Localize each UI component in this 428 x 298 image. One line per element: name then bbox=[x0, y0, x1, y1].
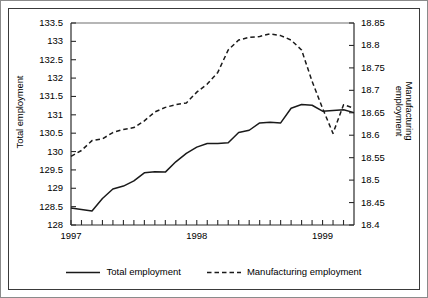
legend-label: Manufacturing employment bbox=[247, 267, 362, 277]
y-axis-left-tick-label: 132.5 bbox=[9, 55, 63, 65]
y-axis-right-tick-label: 18.45 bbox=[361, 198, 385, 208]
y-axis-left-tick-label: 130.5 bbox=[9, 128, 63, 138]
legend-item[interactable]: Manufacturing employment bbox=[207, 267, 362, 277]
y-axis-right-tick-label: 18.5 bbox=[361, 175, 380, 185]
y-axis-right-tick-label: 18.75 bbox=[361, 63, 385, 73]
chart-legend: Total employmentManufacturing employment bbox=[9, 264, 419, 280]
y-axis-right-tick-label: 18.55 bbox=[361, 153, 385, 163]
y-axis-right-tick-label: 18.85 bbox=[361, 18, 385, 28]
y-axis-left-tick-label: 131 bbox=[9, 110, 63, 120]
series-line-solid bbox=[71, 105, 354, 212]
x-axis-tick-label: 1998 bbox=[167, 231, 227, 241]
x-axis-tick-label: 1999 bbox=[293, 231, 353, 241]
legend-solid-line-icon bbox=[66, 269, 100, 276]
y-axis-left-tick-label: 133.5 bbox=[9, 18, 63, 28]
chart-figure: Total employment Manufacturing employmen… bbox=[0, 0, 428, 298]
y-axis-left-tick-label: 131.5 bbox=[9, 91, 63, 101]
y-axis-left-tick-label: 130 bbox=[9, 147, 63, 157]
plot-area bbox=[9, 9, 419, 289]
legend-dashed-line-icon bbox=[207, 269, 241, 276]
legend-item[interactable]: Total employment bbox=[66, 267, 180, 277]
y-axis-left-tick-label: 132 bbox=[9, 73, 63, 83]
y-axis-right-tick-label: 18.65 bbox=[361, 108, 385, 118]
chart-inner-frame: Total employment Manufacturing employmen… bbox=[8, 8, 420, 290]
y-axis-right-tick-label: 18.8 bbox=[361, 40, 380, 50]
y-axis-left-tick-label: 128 bbox=[9, 220, 63, 230]
series-line-dashed bbox=[71, 34, 354, 157]
y-axis-left-tick-label: 129 bbox=[9, 183, 63, 193]
x-axis-tick-label: 1997 bbox=[41, 231, 101, 241]
y-axis-right-tick-label: 18.7 bbox=[361, 85, 380, 95]
y-axis-left-tick-label: 133 bbox=[9, 36, 63, 46]
legend-label: Total employment bbox=[106, 267, 180, 277]
y-axis-left-tick-label: 129.5 bbox=[9, 165, 63, 175]
y-axis-right-tick-label: 18.4 bbox=[361, 220, 380, 230]
y-axis-left-tick-label: 128.5 bbox=[9, 202, 63, 212]
y-axis-right-tick-label: 18.6 bbox=[361, 130, 380, 140]
